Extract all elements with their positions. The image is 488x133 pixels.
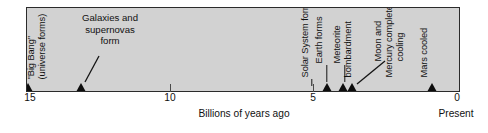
event-label-galaxies-line1: Galaxies and [58, 12, 162, 24]
event-label-moon-mercury-line1: Moon and [373, 20, 383, 61]
present-label: Present [438, 108, 473, 119]
event-marker-mars-cooled [427, 83, 437, 91]
event-label-meteorite-line1: Meteorite [332, 25, 342, 63]
event-label-galaxies-line3: form [58, 35, 162, 47]
event-label-big-bang-line1: "Big Bang" [27, 36, 36, 79]
event-label-earth-forms: Earth forms [314, 16, 324, 63]
event-marker-meteorite-bombardment-secondary [347, 83, 357, 91]
event-marker-galaxies [76, 83, 86, 91]
event-label-meteorite-line2: bombardment [343, 21, 353, 77]
axis-tick-5 [313, 84, 314, 92]
axis-title: Billions of years ago [0, 108, 488, 119]
axis-label-10: 10 [164, 92, 175, 103]
event-label-moon-mercury-line3: cooling [395, 32, 405, 61]
event-marker-big-bang [27, 83, 33, 91]
event-label-galaxies-line2: supernovas [58, 24, 162, 36]
event-label-solar-system: Solar System forms [300, 8, 310, 77]
event-marker-earth-forms [322, 83, 332, 91]
event-label-big-bang-line2: (universe forms) [37, 13, 47, 79]
event-leader-earth-forms [326, 65, 327, 82]
axis-label-0: 0 [454, 92, 460, 103]
axis-label-5: 5 [310, 92, 316, 103]
event-label-galaxies: Galaxies and supernovas form [58, 12, 162, 47]
event-label-mars-cooled: Mars cooled [419, 27, 429, 77]
geologic-timeline-figure: "Big Bang" (universe forms) Solar System… [0, 0, 488, 133]
axis-label-15: 15 [24, 92, 35, 103]
event-label-moon-mercury-line2: Mercury complete [384, 8, 394, 77]
axis-tick-10 [170, 84, 171, 92]
